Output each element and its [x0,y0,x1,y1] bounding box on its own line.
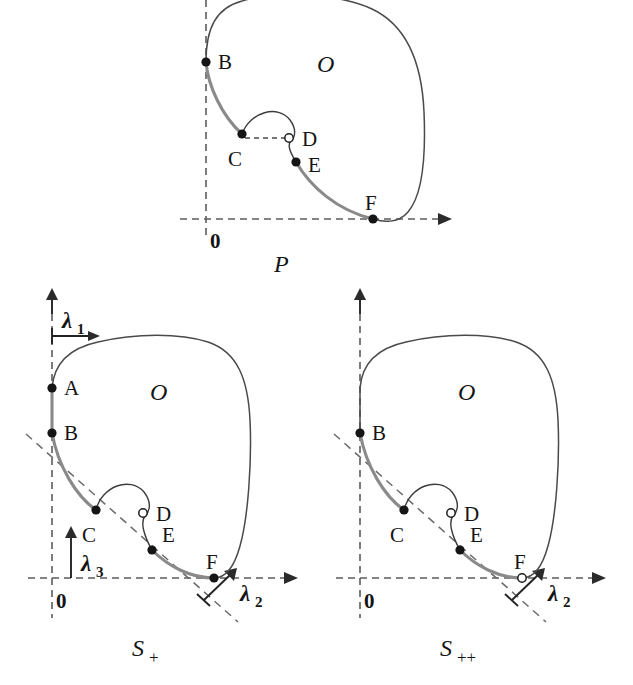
horizontal-axis-arrowhead [438,213,452,225]
panel-s-plus-plus-svg: λ 2 O B C D E F 0 [318,288,633,685]
point-F-label: F [206,550,218,574]
point-F-marker [368,214,377,223]
figure-root: O B C D E F 0 P [0,0,633,685]
point-C-label: C [82,523,96,547]
horizontal-axis-arrowhead [592,572,606,584]
point-C-label: C [228,147,242,171]
origin-label: 0 [56,589,67,613]
origin-label: 0 [364,589,375,613]
lambda2-subscript: 2 [255,594,263,610]
lambda3-label: λ [80,551,91,576]
lambda2-label: λ [547,581,558,606]
lambda2-label: λ [239,581,250,606]
lambda1-arrowhead [88,331,100,341]
point-D-marker [285,134,293,142]
point-D-label: D [302,127,317,151]
point-C-label: C [390,523,404,547]
panel-caption-P: P [273,251,289,277]
lambda1-label: λ [61,308,72,333]
vertical-axis-arrowhead [46,288,58,300]
point-E-marker [147,545,156,554]
point-C-marker [91,505,100,514]
point-F-label: F [514,550,526,574]
point-B-marker [201,57,210,66]
panel-s-plus: λ 1 λ 3 λ 2 O [0,288,320,685]
origin-label: 0 [210,229,221,253]
point-A-marker [47,383,56,392]
panel-caption-S: S [132,635,144,661]
lambda3-arrowhead [65,526,77,538]
point-F-marker [518,574,526,582]
panel-caption-S: S [440,635,452,661]
lambda3-subscript: 3 [96,564,104,580]
point-B-label: B [218,50,232,74]
point-B-marker [355,428,364,437]
panel-caption-subscript: + [149,648,159,667]
region-label-O: O [150,379,167,405]
lambda1-subscript: 1 [77,321,85,337]
point-D-marker [139,509,147,517]
panel-s-plus-plus: λ 2 O B C D E F 0 [318,288,633,685]
point-E-label: E [308,153,321,177]
point-C-marker [399,505,408,514]
point-F-marker [209,573,218,582]
point-F-label: F [365,191,377,215]
point-A-label: A [64,376,80,400]
region-label-O: O [458,379,475,405]
point-B-marker [47,428,56,437]
panel-pareto-svg: O B C D E F 0 P [150,0,480,275]
point-E-marker [291,157,300,166]
point-E-label: E [470,523,483,547]
lambda2-subscript: 2 [563,594,571,610]
vertical-axis-arrowhead [354,288,366,300]
point-E-label: E [162,523,175,547]
horizontal-axis-arrowhead [284,572,298,584]
region-label-O: O [317,51,334,77]
point-D-marker [447,509,455,517]
point-E-marker [455,545,464,554]
panel-caption-subscript: ++ [457,648,476,667]
point-C-marker [237,129,246,138]
panel-pareto: O B C D E F 0 P [150,0,480,275]
panel-s-plus-svg: λ 1 λ 3 λ 2 O [0,288,320,685]
point-B-label: B [64,421,78,445]
point-B-label: B [372,421,386,445]
